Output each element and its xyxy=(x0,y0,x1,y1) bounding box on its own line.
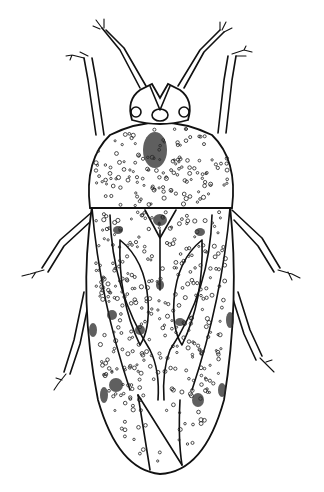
insect-drawing xyxy=(0,0,324,492)
antennae xyxy=(93,19,232,88)
head xyxy=(130,84,190,124)
wings xyxy=(86,206,234,474)
insect-illustration xyxy=(0,0,324,492)
